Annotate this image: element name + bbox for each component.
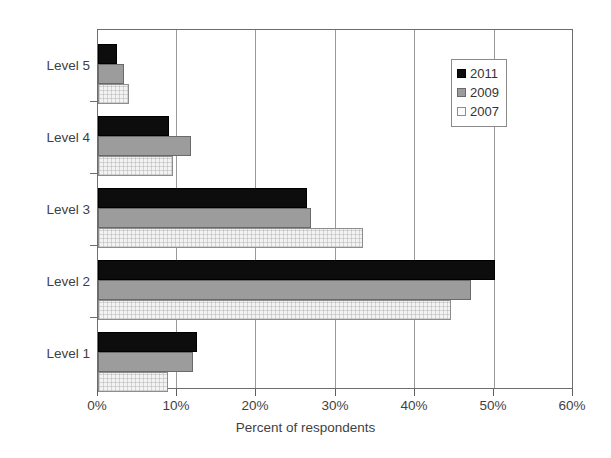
bar-level5-2007 [98, 84, 129, 104]
legend-item-2009: 2009 [457, 83, 501, 102]
category-label-level5: Level 5 [26, 58, 90, 73]
bar-level1-2007 [98, 372, 168, 392]
bar-level1-2009 [98, 352, 193, 372]
gridline-30 [335, 30, 336, 388]
xtick-label-20: 20% [225, 398, 285, 413]
bar-level2-2009 [98, 280, 471, 300]
bar-level4-2009 [98, 136, 191, 156]
xtick-label-60: 60% [542, 398, 602, 413]
xtick-50 [493, 389, 494, 396]
ytick-boundary-4 [90, 317, 97, 318]
bar-level5-2011 [98, 44, 117, 64]
xtick-60 [572, 389, 573, 396]
legend-label-2009: 2009 [470, 86, 499, 99]
legend-swatch-black-icon [457, 69, 466, 78]
xtick-label-50: 50% [463, 398, 523, 413]
xtick-40 [414, 389, 415, 396]
bar-level3-2007 [98, 228, 363, 248]
bar-level5-2009 [98, 64, 124, 84]
category-label-level3: Level 3 [26, 202, 90, 217]
category-label-level4: Level 4 [26, 130, 90, 145]
bar-level3-2009 [98, 208, 311, 228]
bar-level3-2011 [98, 188, 307, 208]
xtick-0 [97, 389, 98, 396]
xtick-label-10: 10% [146, 398, 206, 413]
xtick-10 [176, 389, 177, 396]
xtick-label-0: 0% [67, 398, 127, 413]
gridline-40 [414, 30, 415, 388]
legend-item-2007: 2007 [457, 102, 501, 121]
xtick-label-30: 30% [305, 398, 365, 413]
legend-label-2007: 2007 [470, 105, 499, 118]
category-label-level2: Level 2 [26, 274, 90, 289]
chart-legend: 2011 2009 2007 [451, 59, 507, 127]
category-label-level1: Level 1 [26, 346, 90, 361]
bar-level4-2007 [98, 156, 173, 176]
xtick-20 [255, 389, 256, 396]
xtick-30 [335, 389, 336, 396]
bar-level2-2007 [98, 300, 451, 320]
x-axis-title: Percent of respondents [0, 420, 611, 435]
legend-label-2011: 2011 [470, 67, 498, 80]
bar-level4-2011 [98, 116, 169, 136]
xtick-label-40: 40% [384, 398, 444, 413]
ytick-boundary-2 [90, 173, 97, 174]
bar-level1-2011 [98, 332, 197, 352]
legend-swatch-gray-icon [457, 88, 466, 97]
ytick-boundary-1 [90, 101, 97, 102]
bar-level2-2011 [98, 260, 495, 280]
legend-swatch-white-icon [457, 107, 466, 116]
legend-item-2011: 2011 [457, 64, 501, 83]
ytick-boundary-3 [90, 245, 97, 246]
bar-chart: Level 5 Level 4 Level 3 Level 2 Level 1 … [0, 0, 611, 458]
